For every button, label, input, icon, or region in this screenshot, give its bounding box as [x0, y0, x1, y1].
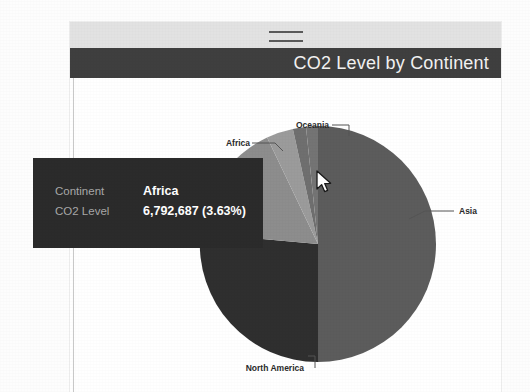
pie-label-asia: Asia	[459, 206, 477, 216]
page-root: CO2 Level by Continent	[0, 0, 530, 392]
pie-label-africa: Africa	[226, 138, 250, 148]
pie-slice-asia[interactable]	[318, 126, 436, 362]
tooltip-value-co2-level: 6,792,687 (3.63%)	[143, 204, 246, 218]
drag-handle-icon[interactable]	[269, 31, 303, 42]
card-titlebar: CO2 Level by Continent	[70, 48, 501, 78]
pie-slice-north-america[interactable]	[200, 233, 318, 362]
tooltip-value-continent: Africa	[143, 184, 246, 198]
pie-label-north-america: North America	[246, 363, 305, 373]
tooltip-key-continent: Continent	[55, 185, 129, 197]
pie-label-oceania: Oceania	[296, 120, 329, 130]
tooltip-key-co2-level: CO2 Level	[55, 205, 129, 217]
page-title: CO2 Level by Continent	[293, 53, 489, 74]
card-topbar	[70, 22, 501, 48]
chart-tooltip: Continent Africa CO2 Level 6,792,687 (3.…	[33, 158, 263, 248]
